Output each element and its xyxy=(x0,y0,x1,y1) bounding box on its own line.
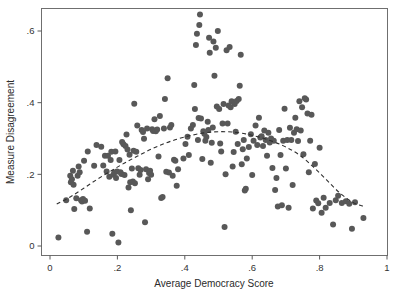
data-point xyxy=(290,182,296,188)
data-point xyxy=(148,172,154,178)
data-point xyxy=(299,104,305,110)
data-point xyxy=(276,127,282,133)
data-point xyxy=(213,45,219,51)
data-point xyxy=(131,101,137,107)
data-point xyxy=(194,31,200,37)
x-tick-label: .4 xyxy=(181,262,189,273)
data-point xyxy=(191,82,197,88)
x-tick-label: 1 xyxy=(384,262,389,273)
data-point xyxy=(199,156,205,162)
data-point xyxy=(272,187,278,193)
data-point xyxy=(81,158,87,164)
data-point xyxy=(129,166,135,172)
data-point xyxy=(151,116,157,122)
data-point xyxy=(174,183,180,189)
data-point xyxy=(235,141,241,147)
data-point xyxy=(113,175,119,181)
x-tick-label: 0 xyxy=(47,262,52,273)
data-point xyxy=(134,123,140,129)
data-point xyxy=(87,205,93,211)
data-point xyxy=(278,152,284,158)
x-axis-ticks: 0.2.4.6.81 xyxy=(47,256,389,273)
data-point xyxy=(91,163,97,169)
data-point xyxy=(240,146,246,152)
data-point xyxy=(282,106,288,112)
data-point xyxy=(295,138,301,144)
data-point xyxy=(198,115,204,121)
data-point xyxy=(115,239,121,245)
data-point xyxy=(237,83,243,89)
data-point xyxy=(142,219,148,225)
data-point xyxy=(254,142,260,148)
data-point xyxy=(170,173,176,179)
data-point xyxy=(186,152,192,158)
data-point xyxy=(253,123,259,129)
data-point xyxy=(233,129,239,135)
data-point xyxy=(55,234,61,240)
data-point xyxy=(128,207,134,213)
data-point xyxy=(116,157,122,163)
data-point xyxy=(126,185,132,191)
data-point xyxy=(77,169,83,175)
data-point xyxy=(216,106,222,112)
data-point xyxy=(70,168,76,174)
data-point xyxy=(225,120,231,126)
data-point xyxy=(306,169,312,175)
data-point xyxy=(236,96,242,102)
data-point xyxy=(82,198,88,204)
data-point xyxy=(317,145,323,151)
data-point xyxy=(222,224,228,230)
data-point xyxy=(208,160,214,166)
data-point xyxy=(195,137,201,143)
x-tick-label: .2 xyxy=(113,262,121,273)
data-point xyxy=(85,148,91,154)
data-point xyxy=(190,122,196,128)
data-point xyxy=(207,50,213,56)
y-axis-title: Measure Disagreement xyxy=(5,80,16,184)
data-point xyxy=(335,193,341,199)
data-point xyxy=(210,38,216,44)
data-point xyxy=(71,206,77,212)
data-point xyxy=(168,122,174,128)
data-point xyxy=(203,134,209,140)
data-point xyxy=(165,75,171,81)
x-axis-title: Average Democracy Score xyxy=(154,278,274,289)
data-point xyxy=(132,180,138,186)
data-point xyxy=(172,158,178,164)
data-point xyxy=(69,176,75,182)
data-point xyxy=(138,167,144,173)
data-point xyxy=(144,125,150,131)
data-point xyxy=(296,98,302,104)
data-point xyxy=(205,119,211,125)
data-point xyxy=(180,156,186,162)
data-point xyxy=(307,138,313,144)
x-tick-label: .6 xyxy=(248,262,256,273)
data-point xyxy=(241,137,247,143)
data-point xyxy=(109,231,115,237)
data-point xyxy=(264,153,270,159)
data-point xyxy=(154,127,160,133)
data-point xyxy=(211,73,217,79)
data-point xyxy=(133,149,139,155)
y-tick-label: 0 xyxy=(29,240,34,251)
data-point xyxy=(246,144,252,150)
data-point xyxy=(84,229,90,235)
data-point xyxy=(321,195,327,201)
data-point xyxy=(230,163,236,169)
data-point xyxy=(210,124,216,130)
x-tick-label: .8 xyxy=(316,262,324,273)
data-point xyxy=(279,202,285,208)
data-point xyxy=(260,143,266,149)
data-point xyxy=(100,162,106,168)
data-point xyxy=(303,96,309,102)
data-point xyxy=(346,201,352,207)
data-point xyxy=(238,52,244,58)
data-point xyxy=(193,42,199,48)
data-point xyxy=(124,132,130,138)
data-point xyxy=(160,194,166,200)
data-point xyxy=(309,112,315,118)
data-point xyxy=(287,125,293,131)
data-point xyxy=(319,210,325,216)
data-point xyxy=(162,96,168,102)
data-point xyxy=(288,137,294,143)
